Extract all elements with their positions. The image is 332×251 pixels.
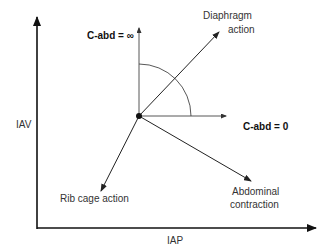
diagram-canvas: C-abd = ∞ C-abd = 0 Diaphragm action Rib… xyxy=(0,0,332,251)
c-abd-zero-label: C-abd = 0 xyxy=(243,121,288,133)
abdominal-label-line1: Abdominal xyxy=(232,186,279,198)
x-axis-label: IAP xyxy=(167,235,183,247)
abdominal-label-line2: contraction xyxy=(230,199,279,211)
c-abd-infinity-label: C-abd = ∞ xyxy=(87,30,134,42)
diaphragm-label-line2: action xyxy=(228,24,255,36)
abdominal-contraction-arrow xyxy=(139,116,251,181)
diaphragm-action-arrow xyxy=(139,32,219,116)
rib-cage-action-arrow xyxy=(101,116,139,191)
diaphragm-label-line1: Diaphragm xyxy=(203,10,252,22)
y-axis-label: IAV xyxy=(16,119,31,131)
origin-point xyxy=(136,113,142,119)
rib-cage-label: Rib cage action xyxy=(60,193,129,205)
